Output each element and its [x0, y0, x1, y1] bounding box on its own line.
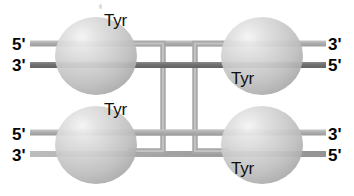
end-label-bottom-right-upper: 3'	[328, 126, 342, 143]
recombination-complex-svg	[0, 0, 354, 196]
end-label-top-left-lower: 3'	[12, 57, 26, 74]
tyr-label-top-left: Tyr	[104, 12, 127, 29]
strand-bottom-light-center	[128, 130, 232, 136]
end-label-top-left-upper: 5'	[12, 36, 26, 53]
end-label-top-right-lower: 5'	[328, 57, 342, 74]
tyr-label-bottom-left: Tyr	[104, 101, 127, 118]
end-label-bottom-left-upper: 5'	[12, 126, 26, 143]
diagram-canvas: Tyr Tyr Tyr Tyr 5' 3' 3' 5' 5' 3' 3' 5'	[0, 0, 354, 196]
end-label-top-right-upper: 3'	[328, 36, 342, 53]
tyr-label-top-right: Tyr	[231, 70, 254, 87]
end-label-bottom-right-lower: 5'	[328, 147, 342, 164]
end-label-bottom-left-lower: 3'	[12, 147, 26, 164]
scan-artifact-speck	[99, 4, 102, 9]
tyr-label-bottom-right: Tyr	[231, 160, 254, 177]
strand-top-dark-center	[128, 62, 232, 68]
